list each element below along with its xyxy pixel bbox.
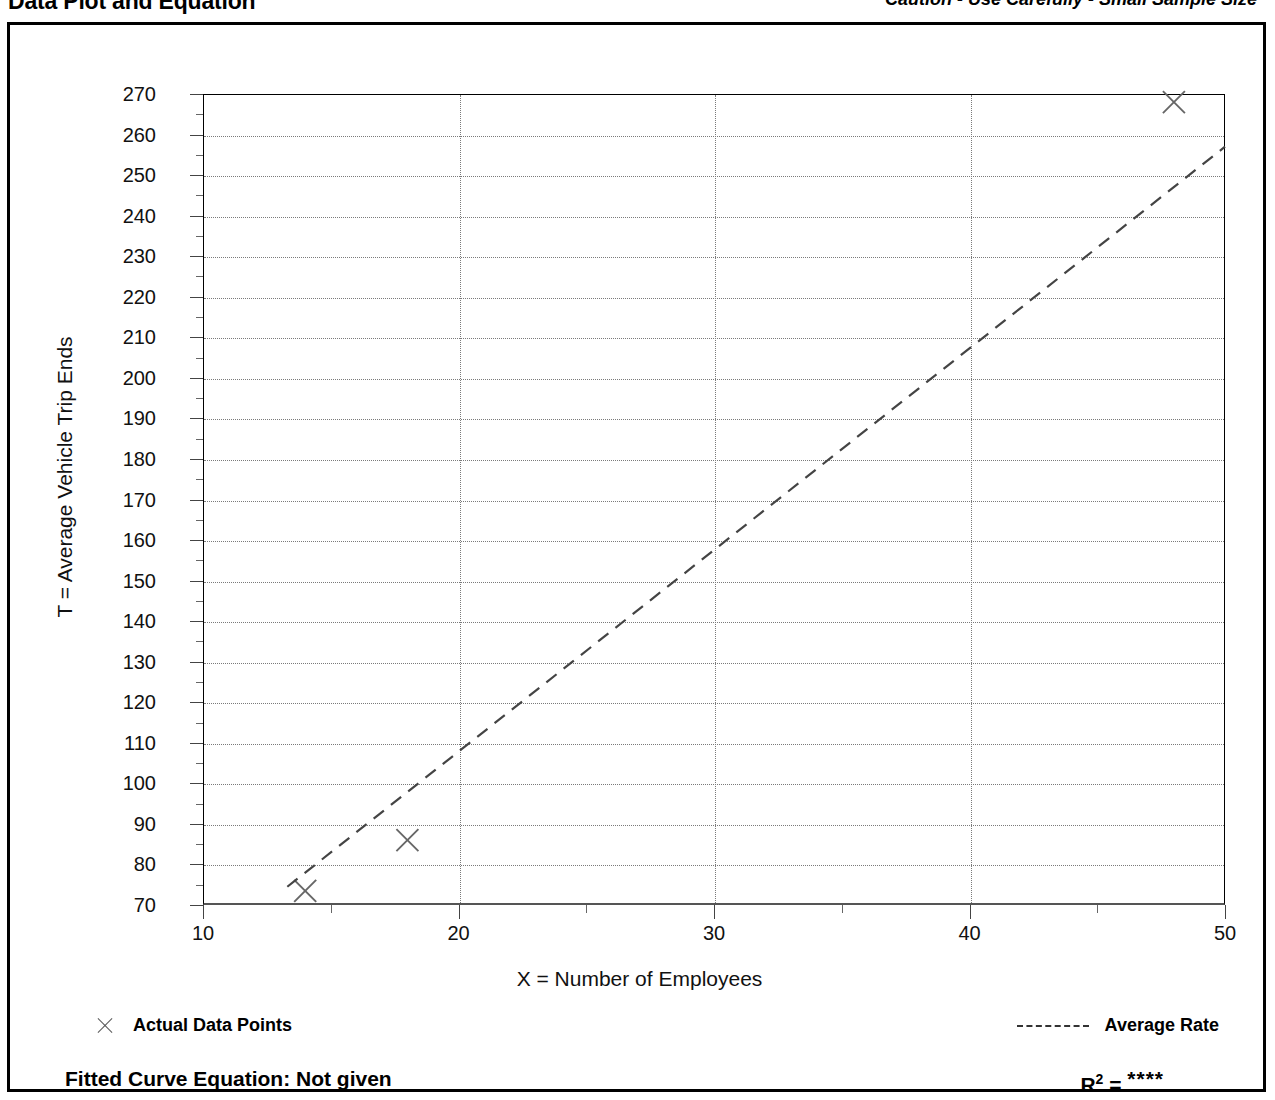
page-header: Data Plot and Equation Caution - Use Car… bbox=[0, 0, 1275, 22]
gridline-horizontal bbox=[204, 825, 1224, 826]
gridline-horizontal bbox=[204, 379, 1224, 380]
x-axis-minor-tick bbox=[586, 905, 587, 913]
gridline-horizontal bbox=[204, 663, 1224, 664]
caution-note: Caution - Use Carefully - Small Sample S… bbox=[885, 0, 1257, 10]
x-axis-tick bbox=[1225, 905, 1226, 919]
x-axis-tick-label: 10 bbox=[168, 922, 238, 945]
y-axis-minor-tick bbox=[196, 804, 203, 805]
y-axis-tick bbox=[190, 418, 203, 419]
x-axis-minor-tick bbox=[842, 905, 843, 913]
x-axis-tick-label: 30 bbox=[679, 922, 749, 945]
y-axis-minor-tick bbox=[196, 155, 203, 156]
y-axis-minor-tick bbox=[196, 520, 203, 521]
r-squared-label: R bbox=[1080, 1073, 1095, 1096]
gridline-horizontal bbox=[204, 703, 1224, 704]
y-axis-minor-tick bbox=[196, 560, 203, 561]
y-axis-tick bbox=[190, 135, 203, 136]
y-axis-minor-tick bbox=[196, 317, 203, 318]
y-axis-minor-tick bbox=[196, 195, 203, 196]
gridline-horizontal bbox=[204, 338, 1224, 339]
page-title: Data Plot and Equation bbox=[8, 0, 255, 15]
dashed-line-icon bbox=[1017, 1025, 1089, 1027]
y-axis-tick-label: 230 bbox=[96, 246, 156, 266]
y-axis-tick-label: 260 bbox=[96, 125, 156, 145]
y-axis-tick-label: 270 bbox=[96, 84, 156, 104]
y-axis-tick-label: 240 bbox=[96, 206, 156, 226]
plot-area bbox=[203, 94, 1225, 905]
y-axis-minor-tick bbox=[196, 763, 203, 764]
y-axis-tick-label: 220 bbox=[96, 287, 156, 307]
x-axis-title: X = Number of Employees bbox=[10, 967, 1269, 991]
gridline-horizontal bbox=[204, 176, 1224, 177]
y-axis-minor-tick bbox=[196, 358, 203, 359]
x-axis-minor-tick bbox=[331, 905, 332, 913]
y-axis-tick bbox=[190, 905, 203, 906]
x-axis-minor-tick bbox=[1097, 905, 1098, 913]
y-axis-tick bbox=[190, 94, 203, 95]
y-axis-tick-label: 200 bbox=[96, 368, 156, 388]
y-axis-tick bbox=[190, 459, 203, 460]
y-axis-minor-tick bbox=[196, 236, 203, 237]
gridline-horizontal bbox=[204, 217, 1224, 218]
gridline-horizontal bbox=[204, 865, 1224, 866]
gridline-horizontal bbox=[204, 541, 1224, 542]
gridline-horizontal bbox=[204, 419, 1224, 420]
y-axis-minor-tick bbox=[196, 601, 203, 602]
y-axis-tick-label: 150 bbox=[96, 571, 156, 591]
y-axis-tick-label: 100 bbox=[96, 773, 156, 793]
y-axis-minor-tick bbox=[196, 398, 203, 399]
y-axis-tick-label: 210 bbox=[96, 327, 156, 347]
y-axis-tick bbox=[190, 500, 203, 501]
y-axis-minor-tick bbox=[196, 641, 203, 642]
y-axis-tick-label: 110 bbox=[96, 733, 156, 753]
y-axis-tick bbox=[190, 824, 203, 825]
r-squared-value: **** bbox=[1127, 1067, 1164, 1090]
y-axis-tick-label: 70 bbox=[96, 895, 156, 915]
r-squared-block: R2 = **** bbox=[1080, 1067, 1164, 1097]
x-axis-tick bbox=[203, 905, 204, 919]
y-axis-tick bbox=[190, 621, 203, 622]
y-axis-tick bbox=[190, 662, 203, 663]
y-axis-minor-tick bbox=[196, 276, 203, 277]
x-marker-icon bbox=[95, 1016, 115, 1036]
y-axis-tick bbox=[190, 783, 203, 784]
y-axis-tick bbox=[190, 743, 203, 744]
gridline-vertical bbox=[715, 95, 716, 903]
y-axis-tick bbox=[190, 256, 203, 257]
y-axis-tick-label: 170 bbox=[96, 490, 156, 510]
y-axis-tick-label: 120 bbox=[96, 692, 156, 712]
y-axis-tick bbox=[190, 581, 203, 582]
y-axis-tick-label: 90 bbox=[96, 814, 156, 834]
y-axis-title: T = Average Vehicle Trip Ends bbox=[53, 147, 77, 807]
y-axis-tick bbox=[190, 702, 203, 703]
gridline-horizontal bbox=[204, 582, 1224, 583]
x-axis-tick-label: 20 bbox=[424, 922, 494, 945]
y-axis-tick-label: 160 bbox=[96, 530, 156, 550]
gridline-horizontal bbox=[204, 744, 1224, 745]
y-axis-tick bbox=[190, 297, 203, 298]
figure-frame: 7080901001101201301401501601701801902002… bbox=[7, 22, 1266, 1092]
y-axis-minor-tick bbox=[196, 844, 203, 845]
legend-item-average-rate: Average Rate bbox=[1017, 1015, 1219, 1036]
x-axis-tick bbox=[714, 905, 715, 919]
gridline-horizontal bbox=[204, 257, 1224, 258]
y-axis-tick bbox=[190, 378, 203, 379]
y-axis-tick bbox=[190, 337, 203, 338]
y-axis-minor-tick bbox=[196, 885, 203, 886]
gridline-horizontal bbox=[204, 501, 1224, 502]
gridline-vertical bbox=[971, 95, 972, 903]
gridline-horizontal bbox=[204, 136, 1224, 137]
x-axis-tick-label: 40 bbox=[935, 922, 1005, 945]
r-squared-equals: = bbox=[1103, 1073, 1127, 1096]
y-axis-tick-label: 190 bbox=[96, 408, 156, 428]
y-axis-minor-tick bbox=[196, 114, 203, 115]
y-axis-tick-label: 250 bbox=[96, 165, 156, 185]
fitted-curve-equation: Fitted Curve Equation: Not given bbox=[65, 1067, 392, 1091]
x-axis-tick bbox=[459, 905, 460, 919]
gridline-horizontal bbox=[204, 784, 1224, 785]
y-axis-tick bbox=[190, 540, 203, 541]
y-axis-minor-tick bbox=[196, 723, 203, 724]
y-axis-tick-label: 130 bbox=[96, 652, 156, 672]
y-axis-tick-label: 80 bbox=[96, 854, 156, 874]
y-axis-tick-label: 180 bbox=[96, 449, 156, 469]
